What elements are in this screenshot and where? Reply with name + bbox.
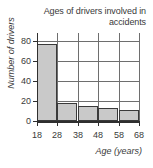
x-tick-58	[119, 122, 120, 126]
x-tick-48	[98, 122, 99, 126]
x-tick-label-68: 68	[134, 130, 144, 140]
histogram-figure: Ages of drivers involved in accidents Nu…	[0, 0, 153, 168]
plot-area: 020406080 182838485868	[37, 33, 139, 121]
bar-28-38	[57, 103, 77, 121]
x-tick-18	[37, 122, 38, 126]
chart-title-line-1: Ages of drivers involved in	[44, 6, 146, 16]
bar-38-48	[78, 106, 98, 121]
y-tick-label-60: 60	[21, 56, 31, 66]
bar-48-58	[98, 108, 118, 121]
x-tick-label-28: 28	[52, 130, 62, 140]
gridline-x-58	[119, 33, 120, 121]
y-tick-label-80: 80	[21, 36, 31, 46]
bar-58-68	[119, 110, 139, 121]
gridline-x-68	[139, 33, 140, 121]
x-tick-68	[139, 122, 140, 126]
x-axis-line	[37, 121, 140, 123]
y-axis-line	[37, 33, 38, 122]
x-tick-label-48: 48	[93, 130, 103, 140]
x-tick-label-58: 58	[114, 130, 124, 140]
x-tick-label-18: 18	[32, 130, 42, 140]
chart-title: Ages of drivers involved in accidents	[26, 6, 146, 28]
x-tick-label-38: 38	[73, 130, 83, 140]
y-tick-label-40: 40	[21, 76, 31, 86]
gridline-y-80	[37, 41, 139, 42]
y-tick-40	[33, 81, 37, 82]
x-tick-38	[78, 122, 79, 126]
bar-18-28	[37, 44, 57, 121]
chart-title-line-2: accidents	[109, 17, 146, 27]
y-tick-80	[33, 41, 37, 42]
x-tick-28	[57, 122, 58, 126]
y-tick-label-20: 20	[21, 96, 31, 106]
y-tick-label-0: 0	[26, 116, 31, 126]
y-tick-20	[33, 101, 37, 102]
y-tick-60	[33, 61, 37, 62]
y-axis-label: Number of drivers	[6, 13, 16, 93]
x-axis-label: Age (years)	[46, 146, 142, 156]
